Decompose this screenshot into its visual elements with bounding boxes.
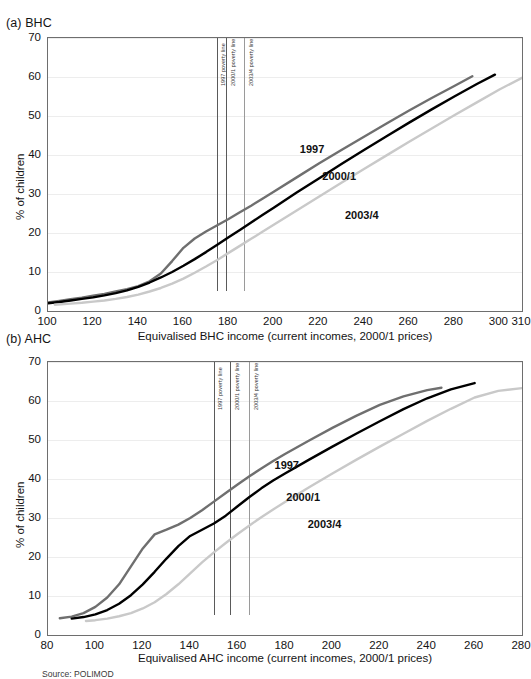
x-axis-tick-label: 180 bbox=[218, 315, 237, 327]
y-axis-tick-label: 20 bbox=[28, 226, 41, 238]
x-axis-tick-label: 160 bbox=[227, 639, 246, 651]
x-axis-tick-label: 160 bbox=[173, 315, 192, 327]
x-axis-tick-label: 310 bbox=[511, 315, 530, 327]
series-label-2000-1: 2000/1 bbox=[322, 170, 356, 182]
x-axis-tick-label: 120 bbox=[83, 315, 102, 327]
y-axis-tick-label: 10 bbox=[28, 589, 41, 601]
panel-title-ahc: (b) AHC bbox=[6, 332, 51, 346]
poverty-line-label: 1997 poverty line bbox=[220, 43, 226, 86]
series-line-1997 bbox=[60, 388, 442, 618]
x-axis-tick-label: 240 bbox=[417, 639, 436, 651]
x-axis-tick-label: 100 bbox=[37, 315, 56, 327]
series-line-1997 bbox=[48, 76, 472, 302]
y-axis-tick-label: 30 bbox=[28, 511, 41, 523]
x-axis-tick-label: 180 bbox=[274, 639, 293, 651]
x-axis-tick-label: 100 bbox=[85, 639, 104, 651]
series-lines bbox=[48, 38, 522, 311]
series-label-2003-4: 2003/4 bbox=[345, 209, 379, 221]
poverty-line-label: 1997 poverty line bbox=[217, 367, 223, 410]
panel-title-bhc: (a) BHC bbox=[6, 16, 52, 30]
x-axis-tick-label: 280 bbox=[511, 639, 530, 651]
x-axis-tick-label: 300 bbox=[489, 315, 508, 327]
y-axis-tick-label: 40 bbox=[28, 148, 41, 160]
x-axis-tick-label: 200 bbox=[263, 315, 282, 327]
plot-area-bhc bbox=[47, 37, 523, 312]
series-label-1997: 1997 bbox=[275, 459, 299, 471]
y-axis-tick-label: 70 bbox=[28, 31, 41, 43]
poverty-line-label: 2000/1 poverty line bbox=[230, 39, 236, 86]
series-line-2000-1 bbox=[72, 383, 475, 619]
x-axis-tick-label: 260 bbox=[464, 639, 483, 651]
series-line-2003-4 bbox=[86, 388, 522, 621]
y-axis-tick-label: 30 bbox=[28, 187, 41, 199]
x-axis-tick-label: 240 bbox=[353, 315, 372, 327]
y-axis-tick-label: 60 bbox=[28, 70, 41, 82]
series-label-2000-1: 2000/1 bbox=[286, 491, 320, 503]
x-axis-tick-label: 260 bbox=[399, 315, 418, 327]
x-axis-tick-label: 220 bbox=[308, 315, 327, 327]
series-label-2003-4: 2003/4 bbox=[308, 518, 342, 530]
y-axis-tick-label: 50 bbox=[28, 109, 41, 121]
x-axis-tick-label: 120 bbox=[132, 639, 151, 651]
plot-area-ahc bbox=[47, 361, 523, 636]
y-axis-tick-label: 60 bbox=[28, 394, 41, 406]
x-axis-tick-label: 140 bbox=[180, 639, 199, 651]
series-lines bbox=[48, 362, 522, 635]
panel-ahc: (b) AHC % of children Equivalised AHC in… bbox=[0, 330, 530, 671]
y-axis-tick-label: 50 bbox=[28, 433, 41, 445]
y-axis-title-bhc: % of children bbox=[14, 154, 26, 220]
y-axis-tick-label: 20 bbox=[28, 550, 41, 562]
x-axis-tick-label: 80 bbox=[41, 639, 54, 651]
series-label-1997: 1997 bbox=[300, 143, 324, 155]
y-axis-tick-label: 10 bbox=[28, 265, 41, 277]
source-note: Source: POLIMOD bbox=[42, 669, 114, 679]
poverty-line-label: 2003/4 poverty line bbox=[248, 39, 254, 86]
x-axis-tick-label: 140 bbox=[128, 315, 147, 327]
y-axis-title-ahc: % of children bbox=[14, 482, 26, 548]
x-axis-title-ahc: Equivalised AHC income (current incomes,… bbox=[47, 652, 523, 664]
series-line-2000-1 bbox=[48, 75, 495, 304]
x-axis-tick-label: 200 bbox=[322, 639, 341, 651]
poverty-line-label: 2003/4 poverty line bbox=[253, 363, 259, 410]
y-axis-tick-label: 40 bbox=[28, 472, 41, 484]
poverty-line-label: 2000/1 poverty line bbox=[234, 363, 240, 410]
x-axis-tick-label: 220 bbox=[369, 639, 388, 651]
series-line-2003-4 bbox=[55, 78, 522, 305]
y-axis-tick-label: 70 bbox=[28, 355, 41, 367]
x-axis-tick-label: 280 bbox=[444, 315, 463, 327]
panel-bhc: (a) BHC % of children Equivalised BHC in… bbox=[0, 0, 530, 340]
